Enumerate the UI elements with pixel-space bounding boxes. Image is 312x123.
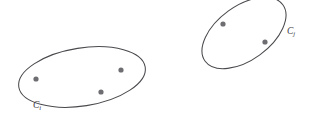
cluster-label-cj: Cj — [287, 27, 295, 37]
cluster-label-cj-subscript: j — [293, 30, 295, 37]
cluster-label-ci: Ci — [33, 101, 41, 111]
data-point — [98, 89, 103, 94]
data-point — [33, 76, 38, 81]
data-point — [262, 39, 267, 44]
data-point — [118, 67, 123, 72]
cluster-outline-cj — [189, 0, 298, 83]
data-point — [220, 21, 225, 26]
cluster-label-ci-subscript: i — [39, 104, 41, 111]
diagram-canvas — [0, 0, 312, 123]
cluster-group-cj — [189, 0, 298, 83]
cluster-diagram: Ci Cj — [0, 0, 312, 123]
